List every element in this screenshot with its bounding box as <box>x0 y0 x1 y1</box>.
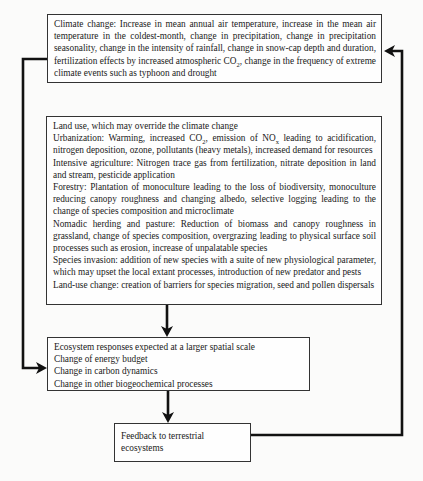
intensive-agriculture-item: Intensive agriculture: Nitrogen trace ga… <box>53 157 376 181</box>
climate-change-text: Climate change: Increase in mean annual … <box>54 18 376 79</box>
urbanization-item: Urbanization: Warming, increased CO2, em… <box>53 132 376 156</box>
land-use-change-item: Land-use change: creation of barriers fo… <box>53 279 376 291</box>
ecosystem-responses-title: Ecosystem responses expected at a larger… <box>54 341 304 353</box>
climate-change-box: Climate change: Increase in mean annual … <box>47 14 382 83</box>
land-use-title: Land use, which may override the climate… <box>53 120 376 132</box>
species-invasion-item: Species invasion: addition of new specie… <box>53 254 376 278</box>
carbon-dynamics-item: Change in carbon dynamics <box>54 365 304 377</box>
nomadic-herding-item: Nomadic herding and pasture: Reduction o… <box>53 218 376 255</box>
feedback-box: Feedback to terrestrial ecosystems <box>114 423 251 462</box>
arrow-climate-to-ecosystem <box>23 59 47 368</box>
feedback-text: Feedback to terrestrial ecosystems <box>121 430 246 454</box>
land-use-box: Land use, which may override the climate… <box>46 116 382 305</box>
forestry-item: Forestry: Plantation of monoculture lead… <box>53 181 376 218</box>
ecosystem-responses-box: Ecosystem responses expected at a larger… <box>47 337 310 391</box>
energy-budget-item: Change of energy budget <box>54 353 304 365</box>
biogeochemical-item: Change in other biogeochemical processes <box>54 378 304 390</box>
